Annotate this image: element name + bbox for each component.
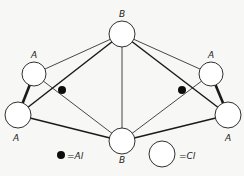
- cl-atoms: [5, 21, 241, 154]
- label-B_bot: B: [119, 155, 125, 165]
- legend-al-dot-icon: [57, 151, 65, 159]
- label-B_top: B: [119, 9, 125, 19]
- label-A_ul: A: [30, 50, 37, 60]
- bond-A_ur-B_bot: [122, 74, 211, 141]
- bond-A_ul-B_bot: [34, 74, 122, 141]
- cl-atom-A_lr: [215, 102, 241, 128]
- label-A_ur: A: [207, 50, 214, 60]
- legend-cl-label: =Cl: [179, 151, 196, 161]
- label-A_lr: A: [224, 133, 231, 143]
- cl-atom-A_ur: [199, 62, 223, 86]
- label-A_ll: A: [12, 133, 19, 143]
- bond-A_lr-B_bot: [122, 115, 228, 141]
- legend-cl-circle-icon: [149, 141, 175, 167]
- bond-A_ll-B_bot: [18, 115, 122, 141]
- bond-edges: [18, 34, 228, 141]
- al-atom-Al_left: [58, 86, 66, 94]
- cl-atom-A_ul: [22, 62, 46, 86]
- cl-atom-B_top: [109, 21, 135, 47]
- cl-atom-B_bot: [109, 128, 135, 154]
- al2cl6-structure-diagram: BAAAAB =Al =Cl: [0, 0, 244, 176]
- al-atom-Al_right: [178, 86, 186, 94]
- cl-atom-A_ll: [5, 102, 31, 128]
- legend-al-label: =Al: [67, 151, 84, 161]
